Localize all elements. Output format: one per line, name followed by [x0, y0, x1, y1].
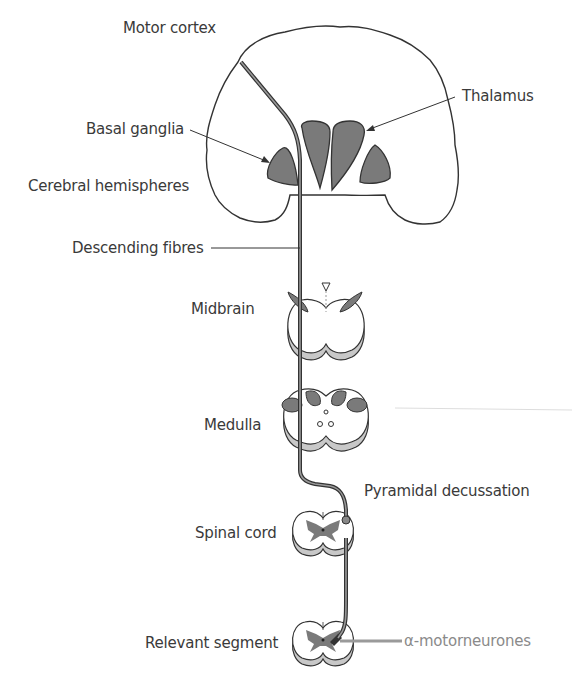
label-descending-fibres: Descending fibres	[72, 239, 204, 257]
label-relevant-segment: Relevant segment	[145, 634, 278, 652]
label-basal-ganglia: Basal ganglia	[86, 120, 184, 138]
label-thalamus: Thalamus	[462, 87, 534, 105]
page-divider-line	[395, 408, 572, 410]
label-spinal-cord: Spinal cord	[195, 524, 277, 542]
cerebral-hemispheres-outline	[206, 26, 458, 224]
label-medulla: Medulla	[204, 416, 261, 434]
label-midbrain: Midbrain	[191, 300, 255, 318]
label-pyramidal-decussation: Pyramidal decussation	[364, 482, 530, 500]
medulla-section	[282, 389, 368, 451]
label-alpha-motorneurones: α-motorneurones	[404, 632, 531, 650]
label-cerebral-hemispheres: Cerebral hemispheres	[28, 177, 189, 195]
decussation-node	[342, 516, 350, 524]
label-motor-cortex: Motor cortex	[123, 19, 216, 37]
